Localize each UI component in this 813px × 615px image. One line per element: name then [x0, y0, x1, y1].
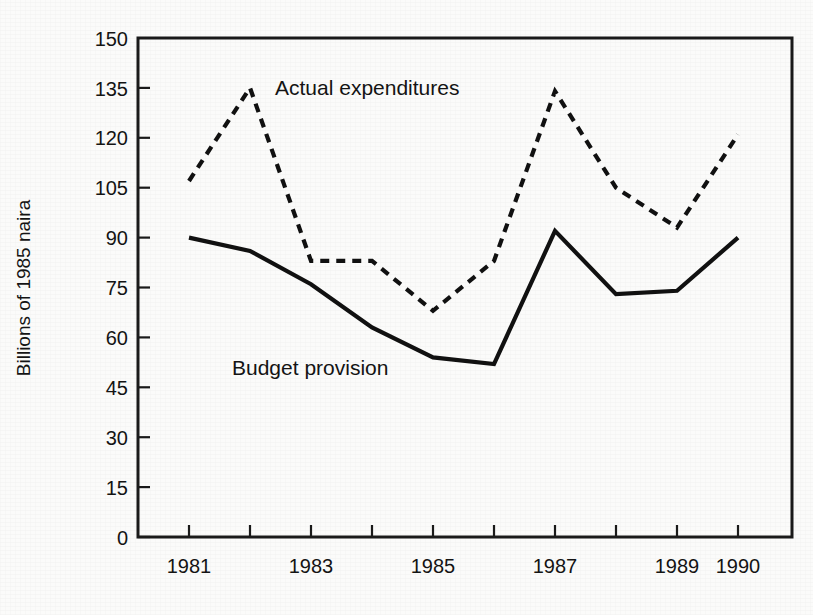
y-tick-label: 120 — [95, 127, 128, 149]
x-axis-ticks — [189, 525, 738, 537]
y-tick-label: 105 — [95, 177, 128, 199]
line-chart-plot: 0 15 30 45 60 75 90 105 120 135 150 — [0, 0, 813, 615]
y-tick-label: 45 — [106, 377, 128, 399]
y-tick-label: 90 — [106, 227, 128, 249]
annotation-actual-expenditures: Actual expenditures — [275, 76, 459, 99]
x-tick-label: 1981 — [167, 555, 212, 577]
x-tick-label: 1983 — [289, 555, 334, 577]
y-tick-label: 30 — [106, 427, 128, 449]
x-tick-label: 1987 — [533, 555, 578, 577]
x-axis-tick-labels: 1981 1983 1985 1987 1989 1990 — [167, 555, 761, 577]
y-tick-label: 0 — [117, 527, 128, 549]
y-tick-label: 135 — [95, 78, 128, 100]
series-actual-expenditures — [189, 88, 738, 311]
x-tick-label: 1985 — [411, 555, 456, 577]
x-tick-label: 1989 — [655, 555, 700, 577]
y-tick-label: 150 — [95, 28, 128, 50]
y-tick-label: 75 — [106, 277, 128, 299]
y-axis-ticks — [138, 88, 150, 537]
y-tick-label: 60 — [106, 327, 128, 349]
y-axis-tick-labels: 0 15 30 45 60 75 90 105 120 135 150 — [95, 28, 128, 549]
x-tick-label: 1990 — [716, 555, 761, 577]
y-tick-label: 15 — [106, 477, 128, 499]
y-axis-title: Billions of 1985 naira — [13, 199, 34, 376]
series-budget-provision — [189, 231, 738, 364]
chart-figure: 0 15 30 45 60 75 90 105 120 135 150 — [0, 0, 813, 615]
annotation-budget-provision: Budget provision — [232, 356, 388, 379]
